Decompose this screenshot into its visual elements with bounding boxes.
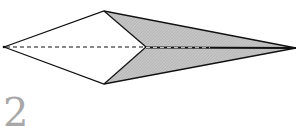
left-tip-point xyxy=(3,46,6,49)
step-number: 2 xyxy=(3,92,28,126)
kite-shape-diagram xyxy=(0,0,300,126)
